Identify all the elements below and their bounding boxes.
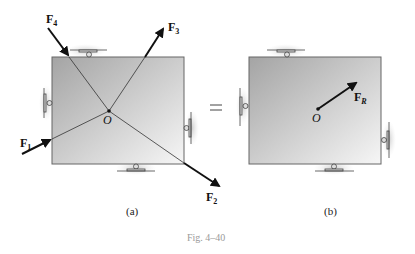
panel-a (22, 28, 219, 186)
force-arrow-f2 (184, 163, 219, 186)
figure-canvas (0, 0, 415, 254)
label-o-b: O (312, 111, 321, 126)
label-f4: F4 (46, 12, 57, 28)
force-arrow-f4 (48, 28, 68, 55)
label-f2: F2 (206, 190, 217, 206)
label-f1: F1 (20, 136, 31, 152)
label-fr: FR (354, 90, 367, 106)
plate-a (52, 57, 184, 164)
panel-b (236, 44, 396, 175)
force-arrow-f3 (145, 29, 163, 57)
figure-caption: Fig. 4–40 (187, 232, 225, 243)
caption-a: (a) (126, 205, 138, 217)
equals-sign (210, 105, 222, 110)
label-o-a: O (103, 113, 112, 128)
caption-b: (b) (324, 205, 337, 217)
label-f3: F3 (168, 20, 179, 36)
